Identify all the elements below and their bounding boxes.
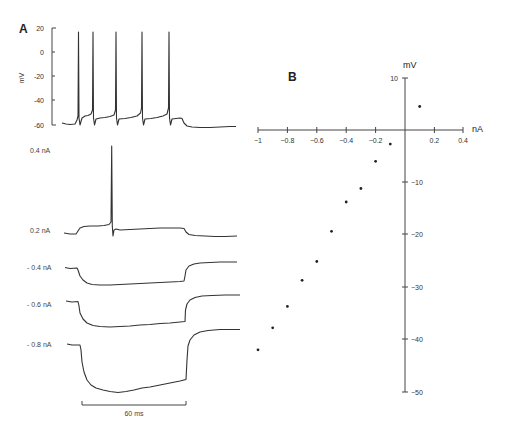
y-tick-label: −30 [411, 284, 423, 291]
data-point [301, 279, 304, 282]
data-point [257, 348, 260, 351]
y-tick-label: 20 [36, 25, 44, 32]
data-point [374, 160, 377, 163]
panel-b: B −1 −0.8 −0.6 −0.4 −0.2 0.2 0.4 nA [254, 60, 483, 396]
data-point [389, 143, 392, 146]
y-tick-label: −40 [411, 336, 423, 343]
data-point [286, 305, 289, 308]
trace-0.2nA [64, 146, 237, 237]
panel-a: A 20 0 -20 -40 -60 mV 0.4 nA 0.2 nA - 0.… [18, 22, 240, 417]
data-point [360, 187, 363, 190]
trace-label-0.4nA: 0.4 nA [30, 147, 51, 154]
x-axis-unit: nA [472, 124, 483, 134]
y-tick-label: -20 [34, 73, 44, 80]
trace-neg0.6nA [66, 295, 240, 327]
panel-a-y-axis: 20 0 -20 -40 -60 mV [18, 25, 56, 129]
y-tick-label: −20 [411, 231, 423, 238]
panel-b-x-axis: −1 −0.8 −0.6 −0.4 −0.2 0.2 0.4 nA [254, 124, 483, 144]
x-tick-label: −1 [254, 137, 262, 144]
y-axis-unit: mV [18, 72, 25, 83]
trace-neg0.8nA [67, 330, 240, 393]
y-tick-label: -40 [34, 97, 44, 104]
trace-label-0.2nA: 0.2 nA [30, 227, 51, 234]
x-tick-label: 0.4 [458, 137, 468, 144]
x-tick-label: −0.4 [339, 137, 353, 144]
trace-neg0.4nA [65, 262, 237, 285]
panel-a-label: A [19, 22, 28, 36]
y-tick-label: 10 [390, 75, 398, 82]
panel-b-y-axis: 10 −10 −20 −30 −40 −50 mV [390, 60, 423, 396]
data-point [418, 105, 421, 108]
trace-label-neg0.8nA: - 0.8 nA [27, 341, 52, 348]
y-tick-label: -60 [34, 122, 44, 129]
data-point [345, 201, 348, 204]
y-tick-label: 0 [40, 49, 44, 56]
trace-label-neg0.4nA: - 0.4 nA [27, 264, 52, 271]
time-scale-bar: 60 ms [82, 401, 186, 417]
x-tick-label: −0.6 [310, 137, 324, 144]
trace-label-neg0.6nA: - 0.6 nA [27, 301, 52, 308]
scale-bar-label: 60 ms [124, 410, 144, 417]
panel-b-label: B [288, 70, 297, 84]
x-tick-label: −0.2 [369, 137, 383, 144]
y-tick-label: −50 [411, 389, 423, 396]
y-axis-unit: mV [403, 60, 417, 70]
data-point [330, 230, 333, 233]
data-point [271, 326, 274, 329]
x-tick-label: −0.8 [280, 137, 294, 144]
figure: A 20 0 -20 -40 -60 mV 0.4 nA 0.2 nA - 0.… [0, 0, 508, 434]
trace-0.4nA [62, 32, 236, 128]
x-tick-label: 0.2 [430, 137, 440, 144]
data-point [315, 260, 318, 263]
y-tick-label: −10 [411, 179, 423, 186]
